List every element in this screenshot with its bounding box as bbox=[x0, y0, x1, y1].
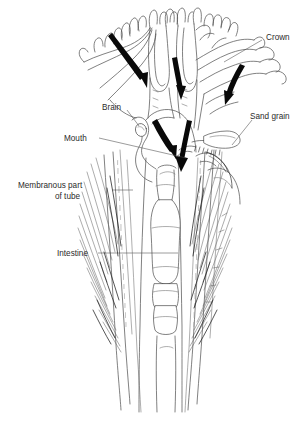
label-crown: Crown bbox=[266, 33, 290, 42]
fan-worm-anatomy-figure: Crown Sand grain Brain Mouth Membranous … bbox=[0, 0, 308, 425]
sand-grain bbox=[204, 131, 240, 148]
label-membranous-part-of-tube-line1: Membranous part bbox=[18, 181, 83, 190]
label-membranous-part-of-tube-line2: of tube bbox=[55, 192, 80, 201]
label-sand-grain: Sand grain bbox=[250, 112, 290, 121]
label-intestine: Intestine bbox=[57, 249, 88, 258]
label-brain: Brain bbox=[102, 103, 122, 112]
label-mouth: Mouth bbox=[64, 134, 87, 143]
